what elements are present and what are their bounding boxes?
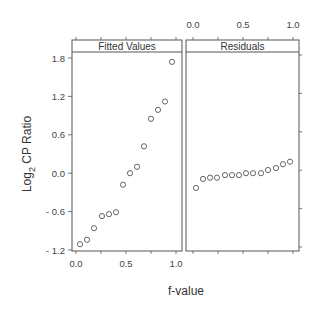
panel-fitted-values: Fitted Values0.00.51.0 <box>69 37 182 269</box>
data-point <box>155 107 160 112</box>
data-point <box>214 175 219 180</box>
data-point <box>280 162 285 167</box>
panel-frame <box>72 40 182 251</box>
data-point <box>222 173 227 178</box>
y-axis: 1.81.20.60.0- 0.6- 1.2 <box>46 53 72 256</box>
data-point <box>265 167 270 172</box>
y-tick-label: 0.0 <box>52 168 65 179</box>
data-point <box>287 159 292 164</box>
trellis-scatter-chart: 1.81.20.60.0- 0.6- 1.2 Fitted Values0.00… <box>0 0 322 310</box>
data-point <box>141 144 146 149</box>
x-axis-title: f-value <box>168 284 204 298</box>
x-tick-label: 1.0 <box>169 258 182 269</box>
data-point <box>77 242 82 247</box>
x-tick-label: 0.0 <box>186 19 199 30</box>
y-axis-title-rest: CP Ratio <box>20 116 34 167</box>
data-point <box>229 173 234 178</box>
data-point <box>250 171 255 176</box>
data-point <box>207 175 212 180</box>
strip-label: Residuals <box>221 41 265 52</box>
y-tick-label: 1.8 <box>52 53 65 64</box>
y-axis-title: Log2 CP Ratio <box>20 116 37 193</box>
data-point <box>120 182 125 187</box>
data-point <box>162 99 167 104</box>
data-point <box>106 212 111 217</box>
data-point <box>243 171 248 176</box>
data-point <box>258 171 263 176</box>
data-point <box>193 185 198 190</box>
data-point <box>148 116 153 121</box>
x-tick-label: 1.0 <box>286 19 299 30</box>
x-tick-label: 0.0 <box>69 258 82 269</box>
panel-residuals: Residuals0.00.51.0 <box>186 19 302 254</box>
data-point <box>236 173 241 178</box>
strip-label: Fitted Values <box>98 41 156 52</box>
y-tick-label: - 1.2 <box>46 245 65 256</box>
y-tick-label: 0.6 <box>52 129 65 140</box>
data-point <box>127 171 132 176</box>
data-point <box>84 237 89 242</box>
data-point <box>99 213 104 218</box>
data-point <box>200 176 205 181</box>
x-tick-label: 0.5 <box>236 19 249 30</box>
data-point <box>113 210 118 215</box>
y-tick-label: 1.2 <box>52 91 65 102</box>
y-tick-label: - 0.6 <box>46 206 65 217</box>
data-point <box>169 59 174 64</box>
data-point <box>273 165 278 170</box>
x-tick-label: 0.5 <box>119 258 132 269</box>
data-point <box>134 164 139 169</box>
data-point <box>91 226 96 231</box>
panel-frame <box>186 40 299 251</box>
y-axis-title-main: Log <box>20 172 34 192</box>
